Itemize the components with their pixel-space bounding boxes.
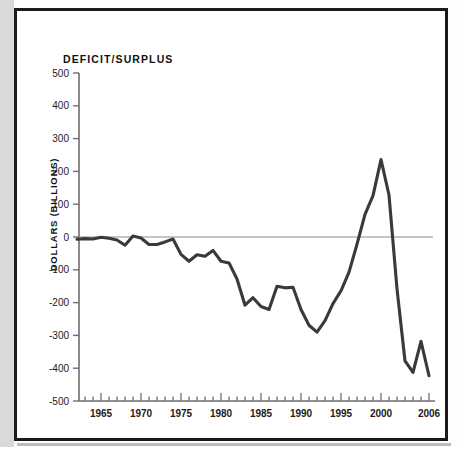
y-axis-tick-label: 200 xyxy=(52,166,69,177)
y-axis-tick-label: 0 xyxy=(63,232,69,243)
y-axis-tick-label: -100 xyxy=(49,264,69,275)
chart-frame: DEFICIT/SURPLUS DOLLARS (BILLIONS) 50040… xyxy=(14,8,448,441)
frame-drop-shadow xyxy=(17,443,451,446)
x-axis-tick-label: 2000 xyxy=(370,408,393,419)
y-axis-tick-label: 100 xyxy=(52,199,69,210)
page-bottom-margin-strip xyxy=(0,447,462,465)
y-axis-tick-label: -200 xyxy=(49,297,69,308)
x-axis-ticks-group: 196519701975198019851990199520002006 xyxy=(85,393,441,419)
x-axis-tick-label: 1965 xyxy=(90,408,113,419)
x-axis-tick-label: 1975 xyxy=(170,408,193,419)
x-axis-tick-label: 1985 xyxy=(250,408,273,419)
data-series-line xyxy=(77,160,429,376)
chart-plot-area: 5004003002001000-100-200-300-400-500 196… xyxy=(17,11,445,438)
y-axis-tick-label: 400 xyxy=(52,100,69,111)
y-axis-tick-label: -500 xyxy=(49,396,69,407)
x-axis-tick-label: 1995 xyxy=(330,408,353,419)
figure-page: DEFICIT/SURPLUS DOLLARS (BILLIONS) 50040… xyxy=(0,0,462,465)
y-axis-ticks-group: 5004003002001000-100-200-300-400-500 xyxy=(49,68,79,407)
page-left-margin-strip xyxy=(0,0,14,447)
x-axis-tick-label: 1980 xyxy=(210,408,233,419)
x-axis-tick-label: 1970 xyxy=(130,408,153,419)
x-axis-tick-label: 1990 xyxy=(290,408,313,419)
x-axis-tick-label: 2006 xyxy=(418,408,441,419)
y-axis-tick-label: 500 xyxy=(52,68,69,79)
y-axis-tick-label: -400 xyxy=(49,363,69,374)
y-axis-tick-label: -300 xyxy=(49,330,69,341)
y-axis-tick-label: 300 xyxy=(52,133,69,144)
